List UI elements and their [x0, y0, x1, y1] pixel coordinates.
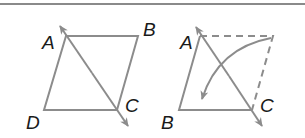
label-c-right: C	[260, 95, 274, 116]
diagonal-ac-arrow-down	[92, 73, 128, 126]
right-folded-triangle-diagram: A C B	[161, 27, 274, 133]
left-parallelogram-diagram: A B C D	[26, 19, 156, 133]
label-a-right: A	[179, 32, 193, 53]
label-a-left: A	[41, 32, 55, 53]
diagonal-ac-arrow-down-right	[229, 76, 262, 126]
label-c-left: C	[125, 95, 139, 116]
label-d-left: D	[26, 112, 40, 133]
diagonal-ac-arrow-up-right	[196, 27, 229, 76]
fold-curved-arrow	[202, 38, 271, 99]
diagonal-ac-arrow-up	[60, 26, 92, 73]
label-b-left: B	[143, 19, 156, 40]
geometry-figure: A B C D A C B	[0, 0, 305, 138]
label-b-right: B	[161, 112, 174, 133]
